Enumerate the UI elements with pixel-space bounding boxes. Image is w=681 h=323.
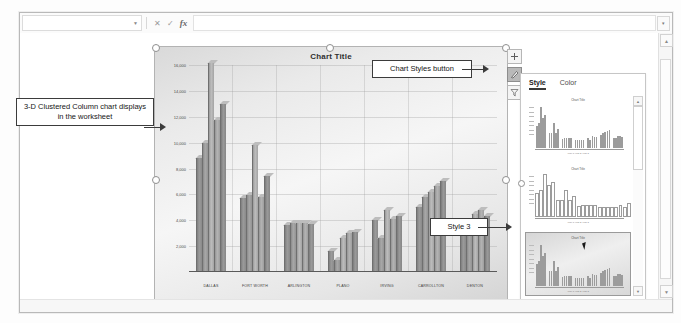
thumbnail-bar — [568, 200, 572, 217]
thumbnail-bar — [543, 174, 547, 217]
pane-handle[interactable] — [518, 180, 525, 187]
name-box[interactable]: ▼ — [22, 15, 142, 31]
thumbnail-bar-group — [556, 190, 576, 217]
tab-color[interactable]: Color — [560, 79, 577, 88]
thumbnail-tick — [529, 185, 534, 186]
caret-up-icon[interactable]: ▲ — [633, 96, 643, 106]
caret-down-icon[interactable]: ▼ — [633, 286, 643, 296]
thumbnail-chart — [535, 105, 624, 148]
thumbnail-bar — [606, 207, 610, 217]
x-axis-tick-label: CARROLLTON — [409, 284, 453, 288]
chart-elements-button[interactable] — [507, 49, 522, 64]
thumbnail-bar — [556, 200, 560, 217]
thumbnail-bar — [589, 205, 593, 217]
thumbnail-bar — [598, 207, 602, 217]
worksheet-vertical-scrollbar[interactable]: ▲ ▼ — [658, 33, 672, 300]
formula-bar-expand-icon[interactable]: ▾ — [657, 16, 670, 31]
thumbnail-tick — [529, 125, 534, 126]
style-gallery[interactable]: Chart TitleYear 1 Year 2 Year 3Chart Tit… — [525, 94, 631, 298]
arrow-head-icon — [160, 123, 166, 131]
callout-leader-line — [462, 69, 485, 70]
thumbnail-bar-group — [577, 205, 597, 217]
formula-bar: ▼ ✕ ✓ fx ▾ — [20, 13, 672, 34]
scrollbar-thumb[interactable] — [633, 106, 643, 170]
thumbnail-bar-group — [548, 261, 560, 286]
plot-area[interactable]: 16,00014,00012,00010,0008,0006,0004,0002… — [189, 65, 497, 272]
thumbnail-chart — [535, 243, 624, 286]
thumbnail-bar-group — [598, 207, 618, 217]
caret-up-icon[interactable]: ▲ — [660, 34, 673, 47]
bar-group — [321, 65, 365, 271]
bar[interactable] — [352, 229, 358, 271]
x-axis-tick-label: DENTON — [453, 284, 497, 288]
thumbnail-axis — [535, 149, 624, 150]
thumbnail-bar — [560, 200, 564, 217]
thumbnail-bar — [583, 278, 585, 286]
thumbnail-tick — [529, 181, 534, 182]
thumbnail-legend: Year 1 Year 2 Year 3 — [526, 152, 630, 155]
chart-styles-pane[interactable]: Style Color Chart TitleYear 1 Year 2 Yea… — [520, 73, 646, 300]
scrollbar-thumb[interactable] — [660, 59, 671, 279]
resize-handle[interactable] — [326, 44, 334, 52]
bar-group — [409, 65, 453, 271]
thumbnail-tick — [529, 203, 534, 204]
thumbnail-tick — [529, 116, 534, 117]
bar-group — [189, 65, 233, 271]
bar-face — [220, 104, 226, 271]
resize-handle[interactable] — [152, 176, 160, 184]
thumbnail-tick — [529, 268, 534, 269]
bar[interactable] — [264, 173, 270, 271]
divider — [146, 17, 147, 29]
bar-group — [365, 65, 409, 271]
x-axis-tick-label: FORT WORTH — [233, 284, 277, 288]
thumbnail-tick — [529, 272, 534, 273]
chart-object[interactable]: Chart Title 16,00014,00012,00010,0008,00… — [154, 46, 508, 300]
thumbnail-bar — [547, 185, 551, 217]
style-thumbnail-2[interactable]: Chart TitleYear 1 Year 2 Year 3 — [525, 163, 631, 227]
fx-icon[interactable]: fx — [177, 17, 190, 30]
thumbnail-title: Chart Title — [526, 236, 630, 240]
thumbnail-tick — [529, 107, 534, 108]
x-axis — [189, 271, 497, 272]
bar[interactable] — [308, 221, 314, 271]
check-icon[interactable]: ✓ — [164, 17, 177, 30]
thumbnail-bar — [570, 276, 572, 286]
thumbnail-bar — [619, 205, 623, 218]
thumbnail-y-axis — [529, 176, 534, 217]
resize-handle[interactable] — [152, 44, 160, 52]
x-axis-labels: DALLASFORT WORTHARLINGTONPLANOIRVINGCARR… — [155, 284, 507, 288]
thumbnail-tick — [529, 263, 534, 264]
style-thumbnail-3[interactable]: Chart TitleYear 1 Year 2 Year 3 — [525, 232, 631, 296]
thumbnail-bar-group — [548, 123, 560, 148]
bar-group — [233, 65, 277, 271]
thumbnail-bar — [609, 130, 611, 148]
thumbnail-tick — [529, 176, 534, 177]
brush-icon — [510, 70, 519, 79]
y-axis-tick-label: 4,000 — [176, 218, 186, 223]
style-thumbnail-1[interactable]: Chart TitleYear 1 Year 2 Year 3 — [525, 94, 631, 158]
thumbnail-tick — [529, 250, 534, 251]
thumbnail-bar — [564, 190, 568, 217]
thumbnail-tick — [529, 190, 534, 191]
chart-side-buttons — [507, 49, 520, 103]
tab-style[interactable]: Style — [529, 79, 546, 88]
callout-chart-styles-button: Chart Styles button — [372, 60, 472, 78]
close-icon[interactable]: ✕ — [151, 17, 164, 30]
bar[interactable] — [220, 101, 226, 271]
thumbnail-tick — [529, 112, 534, 113]
thumbnail-bar — [581, 205, 585, 217]
bar-face — [308, 224, 314, 271]
bar[interactable] — [396, 213, 402, 271]
worksheet[interactable]: Chart Title 16,00014,00012,00010,0008,00… — [20, 33, 659, 300]
worksheet-bottom-strip — [20, 299, 672, 312]
formula-input[interactable] — [193, 15, 656, 31]
bar-group — [453, 65, 497, 271]
bar-face — [352, 232, 358, 271]
thumbnail-legend: Year 1 Year 2 Year 3 — [526, 290, 630, 293]
thumbnail-bar-group — [586, 274, 598, 287]
resize-handle[interactable] — [502, 176, 510, 184]
thumbnail-bar — [544, 253, 546, 286]
caret-down-icon[interactable]: ▼ — [660, 285, 673, 298]
pane-scrollbar[interactable]: ▲ ▼ — [633, 96, 643, 296]
chevron-down-icon[interactable]: ▼ — [133, 20, 138, 26]
